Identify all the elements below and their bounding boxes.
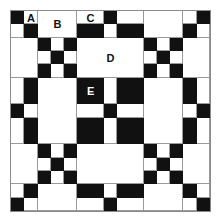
- light-patch: [104, 24, 117, 37]
- dark-patch: [197, 11, 210, 24]
- nine-patch-light: [144, 158, 157, 171]
- light-patch: [104, 78, 117, 105]
- quilt-diagram: [10, 10, 211, 212]
- light-patch: [197, 184, 210, 197]
- light-patch: [197, 78, 210, 105]
- light-patch: [11, 38, 38, 78]
- dark-patch: [11, 198, 24, 211]
- dark-patch: [77, 24, 104, 37]
- light-patch: [183, 38, 210, 78]
- nine-patch-dark: [38, 144, 51, 157]
- nine-patch-dark: [64, 144, 77, 157]
- piece-label-c: C: [87, 12, 95, 23]
- light-patch: [11, 78, 24, 105]
- light-patch: [183, 198, 196, 211]
- dark-patch: [183, 78, 196, 105]
- piece-label-d: D: [107, 52, 115, 63]
- nine-patch-light: [157, 171, 170, 184]
- light-patch: [104, 118, 117, 145]
- nine-patch-dark: [64, 64, 77, 77]
- nine-patch-dark: [64, 171, 77, 184]
- dark-patch: [104, 104, 117, 117]
- light-patch: [11, 118, 24, 145]
- piece-label-b: B: [53, 19, 61, 30]
- nine-patch-dark: [144, 144, 157, 157]
- nine-patch-dark: [51, 158, 64, 171]
- light-patch: [197, 118, 210, 145]
- dark-patch: [104, 11, 117, 24]
- dark-patch: [117, 184, 144, 197]
- light-patch: [24, 104, 37, 117]
- nine-patch-light: [51, 38, 64, 51]
- light-patch: [11, 184, 24, 197]
- light-patch: [117, 198, 144, 211]
- dark-patch: [24, 24, 37, 37]
- nine-patch-dark: [144, 38, 157, 51]
- light-patch: [183, 104, 196, 117]
- nine-patch-dark: [144, 64, 157, 77]
- dark-patch: [24, 78, 37, 105]
- light-patch: [77, 144, 143, 184]
- dark-patch: [183, 24, 196, 37]
- light-patch: [144, 184, 184, 211]
- nine-patch-dark: [170, 64, 183, 77]
- light-patch: [104, 184, 117, 197]
- dark-patch: [24, 118, 37, 145]
- dark-patch: [11, 104, 24, 117]
- light-patch: [77, 198, 104, 211]
- nine-patch-dark: [38, 38, 51, 51]
- dark-patch: [24, 184, 37, 197]
- nine-patch-light: [157, 64, 170, 77]
- nine-patch-light: [157, 144, 170, 157]
- nine-patch-light: [51, 171, 64, 184]
- nine-patch-dark: [144, 171, 157, 184]
- light-patch: [117, 104, 144, 117]
- nine-patch-light: [51, 64, 64, 77]
- light-patch: [11, 24, 24, 37]
- light-patch: [38, 184, 78, 211]
- light-patch: [117, 11, 144, 24]
- light-patch: [197, 24, 210, 37]
- piece-label-e: E: [87, 86, 94, 97]
- light-patch: [144, 11, 184, 38]
- light-patch: [183, 11, 196, 24]
- dark-patch: [117, 24, 144, 37]
- piece-label-a: A: [27, 12, 35, 23]
- dark-patch: [77, 118, 104, 145]
- dark-patch: [117, 78, 144, 105]
- nine-patch-dark: [38, 64, 51, 77]
- light-patch: [144, 78, 184, 145]
- light-patch: [24, 198, 37, 211]
- dark-patch: [197, 104, 210, 117]
- nine-patch-light: [38, 158, 51, 171]
- nine-patch-light: [64, 158, 77, 171]
- nine-patch-light: [64, 51, 77, 64]
- dark-patch: [183, 184, 196, 197]
- dark-patch: [11, 11, 24, 24]
- dark-patch: [117, 118, 144, 145]
- nine-patch-light: [170, 51, 183, 64]
- dark-patch: [77, 184, 104, 197]
- dark-patch: [183, 118, 196, 145]
- nine-patch-light: [170, 158, 183, 171]
- nine-patch-dark: [157, 51, 170, 64]
- dark-patch: [197, 198, 210, 211]
- nine-patch-dark: [38, 171, 51, 184]
- nine-patch-light: [144, 51, 157, 64]
- nine-patch-light: [157, 38, 170, 51]
- light-patch: [183, 144, 210, 184]
- nine-patch-dark: [64, 38, 77, 51]
- nine-patch-dark: [51, 51, 64, 64]
- nine-patch-light: [38, 51, 51, 64]
- dark-patch: [104, 198, 117, 211]
- nine-patch-light: [51, 144, 64, 157]
- nine-patch-dark: [170, 38, 183, 51]
- nine-patch-dark: [170, 171, 183, 184]
- nine-patch-dark: [157, 158, 170, 171]
- light-patch: [77, 104, 104, 117]
- light-patch: [11, 144, 38, 184]
- light-patch: [38, 78, 78, 145]
- nine-patch-dark: [170, 144, 183, 157]
